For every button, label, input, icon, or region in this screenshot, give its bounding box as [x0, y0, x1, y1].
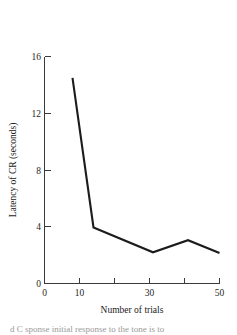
x-tick-label-50: 50: [215, 288, 225, 298]
y-axis-title: Latency of CR (seconds): [8, 123, 19, 218]
x-tick-label-30: 30: [145, 288, 155, 298]
y-tick-label-4: 4: [36, 222, 41, 232]
x-tick-label-10: 10: [75, 288, 85, 298]
y-tick-label-12: 12: [32, 109, 42, 119]
y-axis-ticks: [45, 57, 51, 227]
chart-figure: 16 12 8 4 0 0 10 30 50 Number of trials …: [0, 0, 237, 335]
x-axis-ticks: [80, 278, 220, 284]
y-tick-label-16: 16: [32, 52, 42, 62]
x-axis-title: Number of trials: [101, 305, 164, 315]
line-chart: 16 12 8 4 0 0 10 30 50 Number of trials …: [0, 0, 237, 335]
data-series-line: [73, 78, 220, 253]
page-caption: d C sponse initial response to the tone …: [10, 324, 230, 334]
x-tick-label-0: 0: [42, 288, 47, 298]
y-tick-label-0: 0: [36, 279, 41, 289]
y-tick-label-8: 8: [36, 166, 41, 176]
